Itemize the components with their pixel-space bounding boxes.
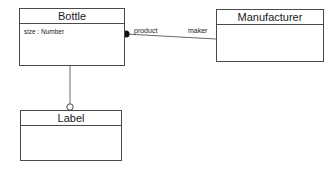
class-name-bottle: Bottle [20, 9, 124, 24]
uml-class-diagram: Bottle size : Number Manufacturer Label … [0, 0, 332, 179]
class-box-bottle[interactable]: Bottle size : Number [19, 8, 125, 66]
class-body-bottle: size : Number [20, 24, 124, 65]
class-attribute-size: size : Number [24, 28, 64, 35]
role-label-product: product [134, 27, 157, 34]
class-body-manufacturer [217, 25, 323, 61]
class-name-label: Label [21, 111, 121, 126]
class-box-manufacturer[interactable]: Manufacturer [216, 9, 324, 62]
class-body-label [21, 126, 121, 160]
role-label-maker: maker [188, 27, 207, 34]
class-box-label[interactable]: Label [20, 110, 122, 161]
edge-bottle-manufacturer [126, 34, 216, 39]
class-name-manufacturer: Manufacturer [217, 10, 323, 25]
